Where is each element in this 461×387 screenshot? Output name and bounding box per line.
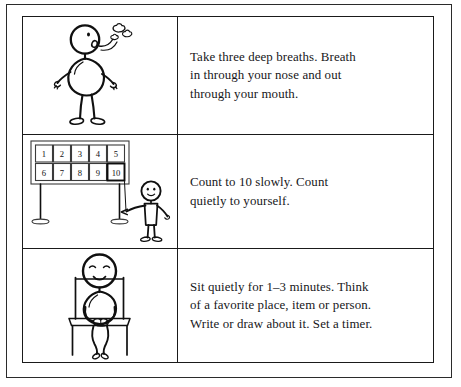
table-row: 1 2 3 4 5 6 7 8 9 10 [23, 135, 433, 249]
worksheet-table: Take three deep breaths. Breath in throu… [22, 16, 434, 363]
stick-figure-sitting-quietly-icon [23, 249, 178, 362]
illustration-cell-counting: 1 2 3 4 5 6 7 8 9 10 [23, 135, 178, 248]
instruction-text: Sit quietly for 1–3 minutes. Think of a … [190, 278, 372, 333]
board-cell-7: 7 [60, 168, 65, 178]
board-cell-10: 10 [112, 168, 121, 178]
board-cell-2: 2 [60, 149, 64, 159]
instruction-cell-sitting: Sit quietly for 1–3 minutes. Think of a … [178, 249, 433, 362]
board-cell-9: 9 [96, 168, 100, 178]
board-cell-8: 8 [78, 168, 82, 178]
board-cell-6: 6 [42, 168, 47, 178]
illustration-cell-breathing [23, 17, 178, 134]
illustration-cell-sitting [23, 249, 178, 362]
table-row: Sit quietly for 1–3 minutes. Think of a … [23, 249, 433, 362]
board-cell-3: 3 [78, 149, 82, 159]
instruction-cell-counting: Count to 10 slowly. Count quietly to you… [178, 135, 433, 248]
instruction-cell-breathing: Take three deep breaths. Breath in throu… [178, 17, 433, 134]
instruction-text: Take three deep breaths. Breath in throu… [190, 48, 356, 103]
stick-figure-deep-breathing-icon [23, 17, 178, 134]
instruction-text: Count to 10 slowly. Count quietly to you… [190, 173, 328, 210]
worksheet-page: Take three deep breaths. Breath in throu… [0, 0, 461, 387]
table-row: Take three deep breaths. Breath in throu… [23, 17, 433, 135]
number-board-counting-icon: 1 2 3 4 5 6 7 8 9 10 [23, 135, 178, 248]
board-cell-5: 5 [114, 149, 118, 159]
board-cell-1: 1 [42, 149, 46, 159]
board-cell-4: 4 [96, 149, 101, 159]
